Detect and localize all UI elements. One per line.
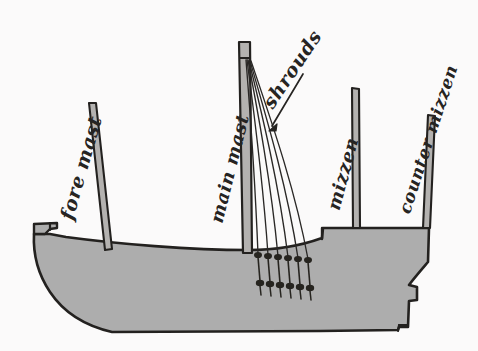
chain-plate xyxy=(280,288,281,297)
hull-body xyxy=(34,228,429,332)
chain-plate xyxy=(270,287,271,296)
drawing-canvas: fore mast main mast shrouds mizzen count… xyxy=(0,0,478,351)
chain-plate xyxy=(300,290,301,299)
chain-plate xyxy=(260,286,261,295)
chain-plate xyxy=(310,291,311,300)
chain-plate xyxy=(290,289,291,298)
hull xyxy=(34,223,429,332)
bow-prow xyxy=(34,223,57,234)
